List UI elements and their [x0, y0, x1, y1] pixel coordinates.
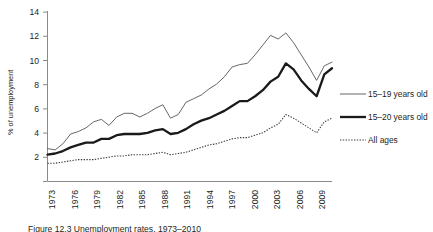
- chart-legend: 15–19 years old 15–20 years old All ages: [340, 89, 428, 145]
- y-axis-ticks: 14 12 10 8 6 4 2: [29, 7, 47, 181]
- x-tick-label: 1973: [47, 190, 57, 209]
- y-axis-title: % of unemployment: [6, 70, 15, 135]
- x-tick-label: 1976: [70, 190, 80, 209]
- figure-container: 14 12 10 8 6 4 2 % of unemployment 1973 …: [0, 0, 433, 232]
- y-tick-label: 6: [34, 104, 39, 114]
- y-tick-label: 8: [34, 80, 39, 90]
- x-tick-label: 1982: [115, 190, 125, 209]
- x-axis-ticks: 1973 1976 1979 1982 1985 1988 1991 1994 …: [47, 190, 327, 209]
- chart-series-group: [48, 33, 333, 163]
- x-tick-label: 2000: [250, 190, 260, 209]
- figure-caption: Figure 12.3 Unemployment rates, 1973–201…: [28, 224, 428, 232]
- y-tick-label: 12: [29, 31, 39, 41]
- x-tick-label: 1994: [205, 190, 215, 209]
- x-tick-label: 1997: [227, 190, 237, 209]
- x-tick-label: 1979: [92, 190, 102, 209]
- legend-label-15-20: 15–20 years old: [368, 112, 428, 122]
- y-tick-label: 2: [34, 152, 39, 162]
- legend-label-15-19: 15–19 years old: [368, 89, 428, 99]
- y-tick-label: 4: [34, 128, 39, 138]
- x-tick-label: 1988: [160, 190, 170, 209]
- chart-axes: [48, 11, 333, 182]
- x-tick-label: 1991: [182, 190, 192, 209]
- series-all-ages: [48, 115, 333, 164]
- series-15-19-years-old: [48, 33, 333, 150]
- legend-label-all-ages: All ages: [368, 135, 398, 145]
- x-tick-label: 2006: [295, 190, 305, 209]
- x-tick-label: 2003: [272, 190, 282, 209]
- x-tick-label: 2009: [317, 190, 327, 209]
- series-15-20-years-old: [48, 63, 333, 154]
- unemployment-line-chart: 14 12 10 8 6 4 2 % of unemployment 1973 …: [0, 0, 433, 232]
- x-tick-label: 1985: [137, 190, 147, 209]
- y-tick-label: 14: [29, 7, 39, 17]
- y-tick-label: 10: [29, 56, 39, 66]
